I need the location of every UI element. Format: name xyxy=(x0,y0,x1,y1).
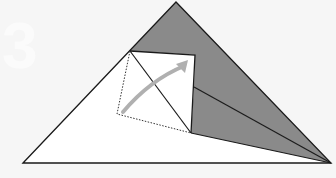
origami-diagram xyxy=(0,0,336,178)
